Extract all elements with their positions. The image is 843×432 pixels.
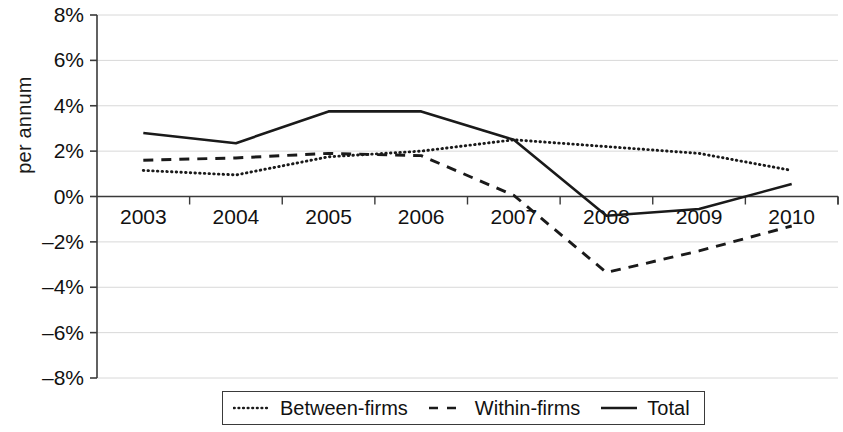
y-tick-label: 6% [54, 48, 84, 71]
y-tick-labels: 8%6%4%2%0%–2%–4%–6%–8% [42, 3, 84, 389]
legend-label-between-firms: Between-firms [280, 397, 408, 420]
x-tick-labels: 20032004200520062007200820092010 [120, 205, 815, 228]
x-tick-label: 2004 [213, 205, 260, 228]
legend-item-total: Total [600, 397, 693, 420]
legend-label-within-firms: Within-firms [475, 397, 581, 420]
y-tick-label: 8% [54, 3, 84, 26]
x-tick-label: 2010 [768, 205, 815, 228]
data-series-layer [143, 111, 791, 272]
legend-swatch-dotted-icon [233, 401, 271, 415]
legend-label-total: Total [647, 397, 689, 420]
y-tick-label: 2% [54, 139, 84, 162]
y-tick-label: –2% [42, 230, 84, 253]
axis-lines [90, 15, 838, 378]
y-tick-label: –4% [42, 275, 84, 298]
legend-swatch-solid-icon [600, 401, 638, 415]
x-tick-label: 2006 [398, 205, 445, 228]
y-tick-label: –6% [42, 321, 84, 344]
chart-container: per annum 8%6%4%2%0%–2%–4%–6%–8% 2003200… [0, 0, 843, 432]
legend-item-between-firms: Between-firms [233, 397, 428, 420]
legend-item-within-firms: Within-firms [428, 397, 601, 420]
y-tick-label: 4% [54, 94, 84, 117]
x-tick-label: 2003 [120, 205, 167, 228]
x-tick-label: 2005 [305, 205, 352, 228]
y-tick-label: –8% [42, 366, 84, 389]
chart-legend: Between-firms Within-firms Total [222, 391, 705, 425]
line-chart-svg: 8%6%4%2%0%–2%–4%–6%–8% 20032004200520062… [0, 0, 843, 432]
y-tick-label: 0% [54, 185, 84, 208]
legend-swatch-dashed-icon [428, 401, 466, 415]
